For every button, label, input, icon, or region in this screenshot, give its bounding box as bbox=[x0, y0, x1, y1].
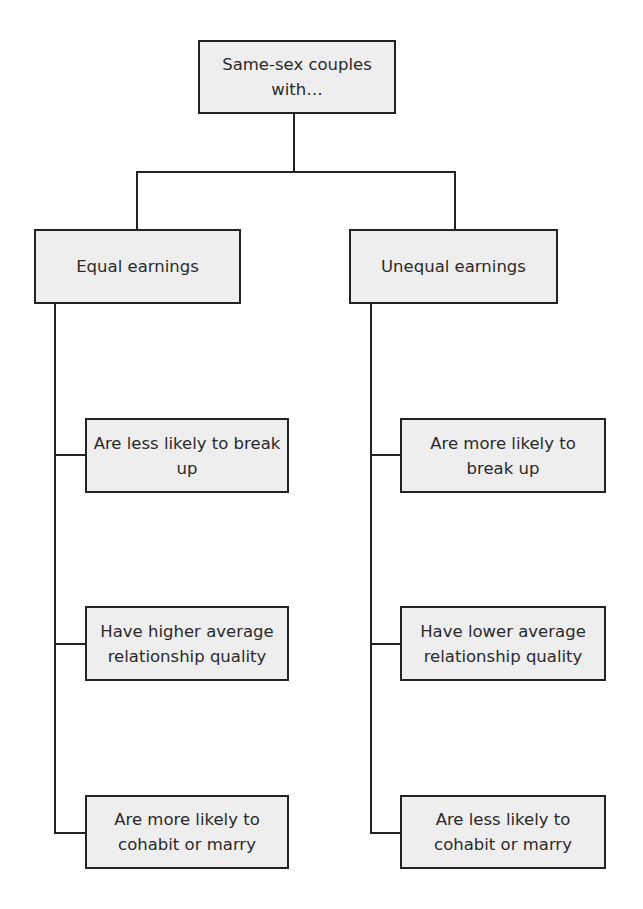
left-leaf-connector-2 bbox=[54, 643, 86, 645]
outcome-node-equal-quality: Have higher average relationship quality bbox=[85, 606, 289, 681]
branch-horizontal-connector bbox=[136, 171, 456, 173]
left-trunk-connector bbox=[54, 303, 56, 833]
right-leaf-connector-3 bbox=[370, 832, 402, 834]
outcome-node-unequal-cohabit: Are less likely to cohabit or marry bbox=[400, 795, 606, 869]
right-leaf-connector-1 bbox=[370, 454, 402, 456]
left-branch-connector bbox=[136, 171, 138, 230]
outcome-label: Are less likely to cohabit or marry bbox=[408, 807, 598, 857]
outcome-node-equal-cohabit: Are more likely to cohabit or marry bbox=[85, 795, 289, 869]
outcome-label: Are more likely to cohabit or marry bbox=[93, 807, 281, 857]
root-stem-connector bbox=[293, 113, 295, 173]
right-leaf-connector-2 bbox=[370, 643, 402, 645]
outcome-label: Have lower average relationship quality bbox=[408, 619, 598, 669]
branch-label: Equal earnings bbox=[76, 254, 199, 279]
outcome-node-unequal-quality: Have lower average relationship quality bbox=[400, 606, 606, 681]
outcome-node-unequal-breakup: Are more likely to break up bbox=[400, 418, 606, 493]
branch-node-equal-earnings: Equal earnings bbox=[34, 229, 241, 304]
outcome-label: Are more likely to break up bbox=[408, 431, 598, 481]
left-leaf-connector-3 bbox=[54, 832, 86, 834]
branch-label: Unequal earnings bbox=[381, 254, 526, 279]
outcome-node-equal-breakup: Are less likely to break up bbox=[85, 418, 289, 493]
branch-node-unequal-earnings: Unequal earnings bbox=[349, 229, 558, 304]
right-branch-connector bbox=[454, 171, 456, 230]
root-node: Same-sex couples with… bbox=[198, 40, 396, 114]
outcome-label: Are less likely to break up bbox=[93, 431, 281, 481]
outcome-label: Have higher average relationship quality bbox=[93, 619, 281, 669]
root-node-label: Same-sex couples with… bbox=[206, 52, 388, 102]
left-leaf-connector-1 bbox=[54, 454, 86, 456]
right-trunk-connector bbox=[370, 303, 372, 833]
